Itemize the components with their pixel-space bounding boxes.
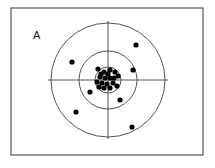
data-point <box>114 83 119 88</box>
data-point <box>129 124 134 129</box>
data-point <box>69 59 74 64</box>
data-point <box>107 85 112 90</box>
data-point <box>117 97 122 102</box>
data-point <box>111 75 116 80</box>
data-point <box>94 79 99 84</box>
data-point <box>105 71 110 76</box>
data-point <box>98 71 103 76</box>
target-scatter-plot: A <box>0 0 215 168</box>
panel-label: A <box>33 29 41 41</box>
data-point <box>130 67 135 72</box>
data-point <box>87 89 92 94</box>
data-point <box>133 42 138 47</box>
figure-panel: A <box>0 0 215 168</box>
data-point <box>73 109 78 114</box>
data-point <box>96 84 101 89</box>
data-point <box>101 85 106 90</box>
data-point <box>95 66 100 71</box>
